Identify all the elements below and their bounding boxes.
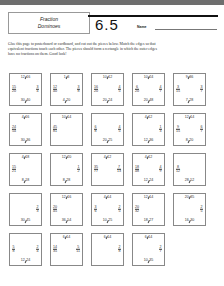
denominator: 7 (160, 250, 162, 254)
denominator: 32 (135, 210, 139, 214)
domino-tile[interactable]: 10121620452024 (91, 73, 124, 106)
fraction-top: 416 (22, 116, 30, 120)
denominator: 7 (160, 90, 162, 94)
denominator: 16 (26, 76, 30, 80)
denominator: 12 (148, 116, 152, 120)
denominator: 9 (160, 170, 162, 174)
denominator: 14 (107, 236, 111, 240)
fraction-top: 1214 (185, 116, 195, 120)
denominator: 45 (26, 219, 30, 223)
domino-tile[interactable]: 13124038420 (50, 73, 83, 106)
domino-tile[interactable]: 6141435511 (50, 233, 83, 266)
denominator: 18 (25, 156, 29, 160)
denominator: 24 (149, 179, 153, 183)
fraction-left: 620 (135, 85, 139, 93)
fraction-bottom: 820 (186, 139, 194, 143)
fraction-right: 28 (118, 245, 121, 253)
denominator: 8 (13, 250, 15, 254)
fraction-left: 2032 (135, 205, 139, 213)
denominator: 48 (135, 170, 139, 174)
domino-tile[interactable]: 41436251025 (91, 193, 124, 226)
fraction-top: 1024 (144, 76, 154, 80)
fraction-top: 412 (145, 116, 153, 120)
denominator: 16 (25, 116, 29, 120)
fraction-right: 23 (36, 205, 39, 213)
denominator: 14 (107, 196, 111, 200)
domino-tile[interactable]: 4123577713 (91, 153, 124, 186)
domino-tile[interactable]: 10144581 (50, 113, 83, 146)
denominator: 36 (189, 76, 193, 80)
fraction-top: 412 (104, 156, 112, 160)
domino-tile[interactable]: 8122852 (173, 153, 206, 186)
domino-tile[interactable]: 58241224 (9, 233, 42, 266)
fraction-top: 614 (63, 236, 71, 240)
denominator: 52 (190, 179, 194, 183)
denominator: 35 (149, 259, 153, 263)
fraction-left: 1620 (94, 85, 98, 93)
fraction-top: 418 (22, 156, 30, 160)
domino-tile[interactable]: 68452025 (91, 113, 124, 146)
denominator: 28 (189, 99, 193, 103)
domino-tile[interactable]: 121491567820 (173, 113, 206, 146)
denominator: 14 (149, 196, 153, 200)
denominator: 36 (149, 139, 153, 143)
denominator: 20 (66, 99, 70, 103)
fraction-bottom: 3045 (21, 219, 31, 223)
domino-tile[interactable]: 1024620472048 (132, 73, 165, 106)
fraction-right: 38 (77, 85, 80, 93)
denominator: 4 (37, 90, 39, 94)
fraction-left: 915 (176, 125, 180, 133)
domino-tile[interactable]: 4121848491224 (132, 153, 165, 186)
fraction-left: 36 (94, 205, 97, 213)
denominator: 4 (37, 250, 39, 254)
domino-tile[interactable]: 61428 (91, 233, 124, 266)
denominator: 8 (95, 130, 97, 134)
fraction-left: 1240 (53, 85, 57, 93)
fraction-right: 13 (159, 125, 162, 133)
domino-tile[interactable]: 12161520343040 (9, 73, 42, 106)
denominator: 25 (108, 219, 112, 223)
fraction-left: 2454 (12, 125, 16, 133)
fraction-left: 1521 (12, 165, 16, 173)
denominator: 15 (176, 90, 180, 94)
fraction-right: 45 (118, 125, 121, 133)
fraction-left: 4581 (53, 125, 57, 133)
denominator: 5 (201, 210, 203, 214)
domino-tile[interactable]: 41624543036 (9, 113, 42, 146)
fraction-right: 713 (117, 165, 121, 173)
fraction-top: 1014 (62, 116, 72, 120)
denominator: 21 (12, 170, 16, 174)
domino-tile[interactable]: 4181521818 (9, 153, 42, 186)
denominator: 12 (148, 156, 152, 160)
fraction-right: 37 (200, 85, 203, 93)
denominator: 14 (66, 236, 70, 240)
domino-tile[interactable]: 121620453654 (50, 193, 83, 226)
denominator: 24 (26, 259, 30, 263)
fraction-top: 13 (64, 76, 70, 80)
denominator: 81 (53, 130, 57, 134)
fraction-bottom: 1224 (21, 259, 31, 263)
domino-tile[interactable]: 233045 (9, 193, 42, 226)
fraction-top: 414 (104, 196, 112, 200)
domino-tile[interactable]: 614271035 (132, 233, 165, 266)
domino-tile[interactable]: 121420321827 (132, 193, 165, 226)
worksheet-title-box: Fraction Dominoes (8, 12, 90, 34)
name-field[interactable] (155, 29, 217, 30)
fraction-left: 812 (176, 165, 180, 173)
fraction-top: 1216 (21, 76, 31, 80)
domino-tile[interactable]: 2035251630 (173, 193, 206, 226)
domino-tile[interactable]: 93631537728 (173, 73, 206, 106)
fraction-bottom: 2025 (103, 139, 113, 143)
domino-tile[interactable]: 122012828 (50, 153, 83, 186)
fraction-right: 25 (200, 205, 203, 213)
top-banner (0, 0, 224, 5)
denominator: 35 (53, 250, 57, 254)
fraction-top: 1214 (144, 196, 154, 200)
fraction-right: 67 (200, 125, 203, 133)
denominator: 3 (67, 76, 69, 80)
fraction-bottom: 1025 (103, 219, 113, 223)
denominator: 54 (12, 130, 16, 134)
fraction-left: 68 (94, 125, 97, 133)
fraction-bottom: 728 (186, 99, 194, 103)
domino-tile[interactable]: 412131236 (132, 113, 165, 146)
